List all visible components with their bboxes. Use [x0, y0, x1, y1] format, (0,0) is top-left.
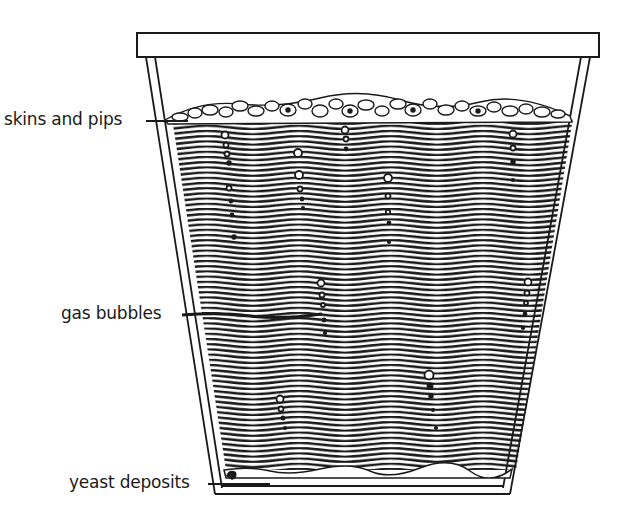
skins-and-pips-cap — [165, 93, 572, 124]
vessel-lid — [137, 33, 599, 57]
liquid — [160, 115, 580, 475]
label-skins-and-pips: skins and pips — [4, 109, 122, 129]
label-yeast-deposits: yeast deposits — [69, 472, 190, 492]
vessel-base — [215, 486, 510, 494]
label-gas-bubbles: gas bubbles — [61, 303, 161, 323]
fermentation-vessel-diagram — [0, 0, 625, 522]
